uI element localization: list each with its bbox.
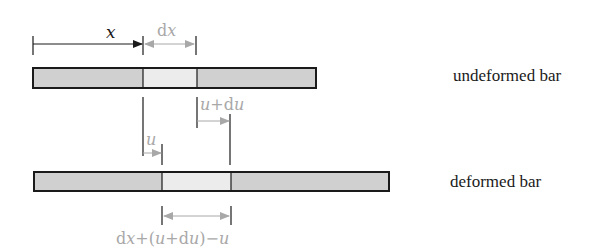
deformed-length-dimension: dx+(u+du)−u <box>116 206 231 248</box>
deformed-bar-label: deformed bar <box>450 172 541 191</box>
undeformed-bar-label: undeformed bar <box>453 66 561 85</box>
deformed-length-label: dx+(u+du)−u <box>116 229 229 248</box>
deformed-bar <box>34 172 389 191</box>
bar-deformation-diagram: x dx undeformed bar u u+du deformed bar <box>0 0 598 249</box>
deformed-element <box>162 173 231 190</box>
dx-dimension: dx <box>145 21 196 55</box>
undeformed-element <box>143 69 197 87</box>
dx-label: dx <box>157 21 176 40</box>
undeformed-bar <box>33 68 316 88</box>
u-displacement: u <box>143 97 162 165</box>
u-plus-du-displacement: u+du <box>197 95 244 165</box>
u-label: u <box>146 130 156 149</box>
x-dimension: x <box>33 22 143 55</box>
x-label: x <box>106 22 116 42</box>
u-du-label: u+du <box>200 95 244 114</box>
